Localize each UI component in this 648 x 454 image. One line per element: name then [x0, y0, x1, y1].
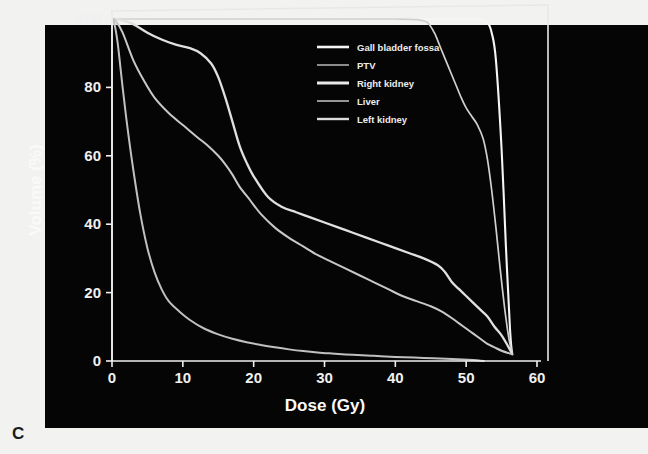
y-tick-label: 60: [84, 147, 101, 164]
x-tick-label: 40: [387, 369, 404, 386]
x-tick-label: 0: [108, 369, 116, 386]
data-curves: [112, 19, 512, 361]
x-tick-label: 20: [245, 369, 262, 386]
legend-label: Right kidney: [357, 78, 415, 89]
dvh-chart: 0102030405060 020406080100 Dose (Gy) Vol…: [0, 0, 603, 429]
legend-label: Gall bladder fossa: [357, 42, 440, 53]
chart-legend: Gall bladder fossaPTVRight kidneyLiverLe…: [317, 42, 440, 125]
x-tick-label: 30: [316, 369, 333, 386]
y-tick-label: 40: [84, 215, 101, 232]
x-axis-ticks: 0102030405060: [108, 361, 546, 386]
y-tick-label: 100: [76, 10, 101, 27]
x-axis-title: Dose (Gy): [285, 396, 365, 415]
legend-label: PTV: [357, 60, 376, 71]
y-tick-label: 20: [84, 284, 101, 301]
x-tick-label: 50: [458, 369, 475, 386]
y-tick-label: 0: [93, 352, 101, 369]
y-tick-label: 80: [84, 78, 101, 95]
legend-label: Liver: [357, 96, 380, 107]
x-tick-label: 60: [529, 369, 546, 386]
plot-frame: [112, 5, 548, 361]
legend-label: Left kidney: [357, 114, 408, 125]
x-tick-label: 10: [174, 369, 191, 386]
series-line: [112, 19, 484, 361]
y-axis-title: Volume (%): [26, 144, 45, 235]
y-axis-ticks: 020406080100: [76, 10, 112, 369]
